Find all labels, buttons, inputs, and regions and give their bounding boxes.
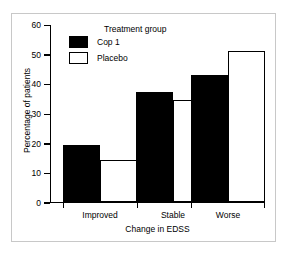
figure: 60 50 40 30 20 10 0 Percentage of patien… (0, 0, 290, 257)
y-tick-60 (44, 25, 50, 26)
y-tick-label-50: 50 (1, 51, 41, 60)
x-axis-title: Change in EDSS (50, 224, 265, 234)
plot-area: 60 50 40 30 20 10 0 Percentage of patien… (0, 0, 290, 257)
bar-improved-cop1 (63, 145, 100, 202)
y-tick-50 (44, 54, 50, 55)
y-tick-label-0: 0 (1, 199, 41, 208)
x-tick-stable-end (191, 203, 192, 208)
bar-worse-cop1 (191, 75, 228, 203)
y-tick-20 (44, 143, 50, 144)
x-tick-label-improved: Improved (60, 210, 140, 220)
y-axis-title: Percentage of patients (23, 51, 32, 171)
legend-label-placebo: Placebo (97, 53, 128, 63)
y-tick-label-10: 10 (1, 169, 41, 178)
y-tick-0 (44, 202, 50, 203)
y-tick-30 (44, 114, 50, 115)
y-tick-label-60: 60 (1, 21, 41, 30)
y-axis-line (50, 25, 51, 203)
legend-title: Treatment group (104, 24, 167, 34)
x-tick-improved-end (137, 203, 138, 208)
y-tick-40 (44, 84, 50, 85)
x-tick-improved-start (63, 203, 64, 208)
legend-swatch-placebo (69, 52, 88, 64)
legend-swatch-cop1 (69, 36, 88, 48)
x-tick-label-worse: Worse (188, 210, 268, 220)
bar-worse-placebo (228, 51, 265, 202)
legend-label-cop1: Cop 1 (97, 37, 120, 47)
x-tick-worse-end (264, 203, 265, 208)
y-tick-10 (44, 173, 50, 174)
bar-improved-placebo (100, 160, 137, 202)
bar-stable-cop1 (136, 92, 173, 202)
